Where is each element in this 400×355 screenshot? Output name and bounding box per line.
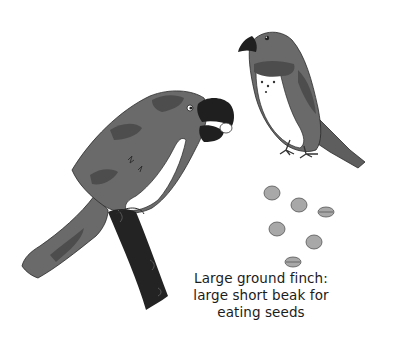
small-finch xyxy=(238,32,365,168)
seeds xyxy=(264,186,334,267)
finch-illustration: Large ground finch: large short beak for… xyxy=(0,0,400,355)
caption: Large ground finch: large short beak for… xyxy=(178,270,344,321)
caption-line-3: eating seeds xyxy=(178,304,344,321)
caption-line-2: large short beak for xyxy=(178,287,344,304)
caption-line-1: Large ground finch: xyxy=(178,270,344,287)
